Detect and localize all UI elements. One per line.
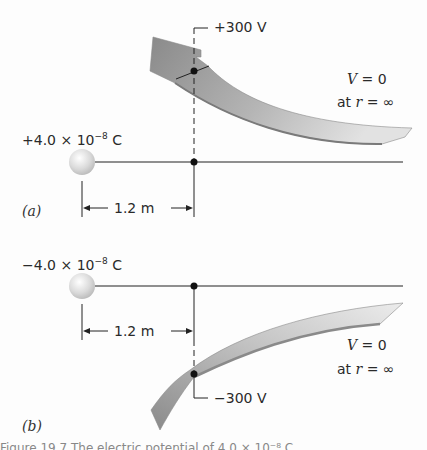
diagram-graphics xyxy=(0,0,427,450)
panel-label-b: (b) xyxy=(22,418,42,434)
charge-label-b: −4.0 × 10−8 C xyxy=(22,257,122,272)
panel-label-a: (a) xyxy=(22,203,41,219)
potential-dot-b xyxy=(191,371,198,378)
figure-caption: Figure 19.7 The electric potential of 4.… xyxy=(0,441,427,450)
potential-figure: +4.0 × 10−8 C +300 V V = 0 at r = ∞ 1.2 … xyxy=(0,0,427,450)
reference-line1-b: V = 0 xyxy=(347,338,387,352)
reference-line2-a: at r = ∞ xyxy=(337,95,395,109)
distance-label-b: 1.2 m xyxy=(114,324,154,338)
point-dot-a xyxy=(191,159,198,166)
potential-arrow-up xyxy=(150,37,412,144)
potential-label-b: −300 V xyxy=(214,391,266,405)
charge-sphere-b xyxy=(69,273,95,299)
charge-label-a: +4.0 × 10−8 C xyxy=(22,132,122,147)
point-dot-b xyxy=(191,283,198,290)
reference-line2-b: at r = ∞ xyxy=(337,362,395,376)
reference-line1-a: V = 0 xyxy=(347,72,387,86)
panel-a-graphics xyxy=(69,28,412,217)
distance-label-a: 1.2 m xyxy=(114,201,154,215)
potential-dot-a xyxy=(191,68,198,75)
charge-sphere-a xyxy=(69,149,95,175)
potential-label-a: +300 V xyxy=(214,20,266,34)
